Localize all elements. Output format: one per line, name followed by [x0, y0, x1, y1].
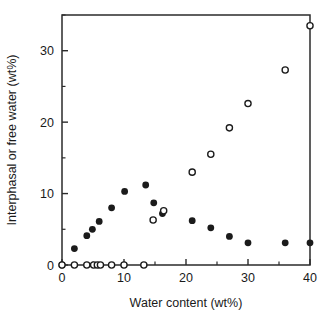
- data-point-open: [109, 262, 115, 268]
- scatter-chart: 010203040 0102030 Water content (wt%) In…: [0, 0, 330, 320]
- data-point-filled: [71, 245, 78, 252]
- data-point-filled: [142, 182, 149, 189]
- y-tick-label: 10: [40, 187, 54, 201]
- data-point-filled: [121, 188, 128, 195]
- data-point-open: [97, 262, 103, 268]
- data-point-open: [161, 208, 167, 214]
- data-point-filled: [307, 239, 314, 246]
- y-tick-label: 20: [40, 116, 54, 130]
- data-point-open: [121, 262, 127, 268]
- data-point-open: [141, 262, 147, 268]
- data-point-open: [282, 67, 288, 73]
- y-axis-title: Interphasal or free water (wt%): [5, 55, 19, 226]
- x-tick-label: 10: [117, 271, 131, 285]
- data-point-open: [208, 151, 214, 157]
- data-point-filled: [245, 239, 252, 246]
- data-point-open: [307, 23, 313, 29]
- y-tick-label: 0: [47, 259, 54, 273]
- y-tick-label: 30: [40, 44, 54, 58]
- data-point-open: [226, 125, 232, 131]
- data-point-open: [71, 262, 77, 268]
- data-point-open: [189, 169, 195, 175]
- x-tick-label: 0: [59, 271, 66, 285]
- data-point-open: [245, 100, 251, 106]
- x-tick-label: 40: [303, 271, 317, 285]
- x-tick-label: 30: [241, 271, 255, 285]
- data-point-filled: [207, 224, 214, 231]
- data-point-filled: [150, 199, 157, 206]
- data-point-open: [84, 262, 90, 268]
- data-point-open: [59, 262, 65, 268]
- x-tick-label: 20: [179, 271, 193, 285]
- x-axis-title: Water content (wt%): [130, 296, 243, 310]
- data-point-filled: [108, 204, 115, 211]
- data-point-filled: [226, 233, 233, 240]
- data-point-filled: [89, 226, 96, 233]
- data-point-open: [150, 217, 156, 223]
- data-point-filled: [189, 217, 196, 224]
- data-point-filled: [96, 218, 103, 225]
- data-point-filled: [282, 239, 289, 246]
- data-point-filled: [83, 232, 90, 239]
